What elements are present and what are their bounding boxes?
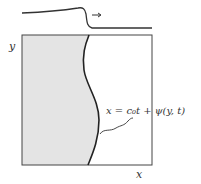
diagram-canvas <box>0 0 201 184</box>
y-axis-label: y <box>9 40 15 53</box>
wave-profile <box>22 8 152 28</box>
arrow-right-icon <box>92 13 101 17</box>
x-axis-label: x <box>136 168 142 181</box>
shaded-region <box>22 35 99 165</box>
equation-label: x = c₀t + ψ(y, t) <box>106 105 185 116</box>
leader-line <box>100 118 133 134</box>
